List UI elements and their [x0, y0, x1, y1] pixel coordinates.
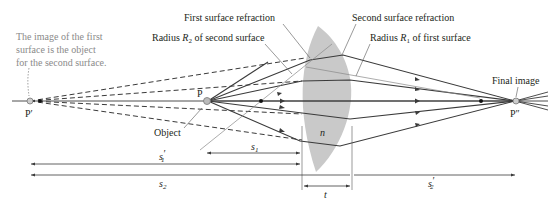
label-s2-prime: s′2	[428, 175, 435, 191]
label-p-double-prime: P″	[510, 108, 520, 119]
label-first-surface-refraction: First surface refraction	[184, 12, 275, 23]
label-radius-r2: Radius R2 of second surface	[152, 32, 265, 45]
center-of-curvature-r1	[259, 99, 263, 103]
leader-final-image	[516, 87, 518, 97]
leader-radius-r2	[265, 44, 292, 74]
label-p-prime: P′	[25, 108, 33, 119]
small-dot-p-prime	[38, 99, 42, 103]
note-line-3: for the second surface.	[16, 57, 107, 68]
dimension-lines	[31, 153, 515, 186]
note-pointer	[28, 68, 29, 96]
label-s1-prime: s′1	[159, 148, 166, 164]
label-s2: s2	[159, 178, 167, 191]
point-p	[204, 98, 211, 105]
label-final-image: Final image	[492, 75, 540, 86]
leader-first-surface	[283, 24, 310, 58]
leader-second-surface	[342, 24, 356, 55]
lens-index-label: n	[320, 127, 325, 138]
point-p-double-prime	[513, 98, 519, 104]
note-line-2: surface is the object	[16, 44, 96, 55]
leader-radius-r1	[356, 44, 370, 76]
label-radius-r1: Radius R1 of first surface	[370, 32, 471, 45]
center-of-curvature-r2	[479, 99, 483, 103]
label-t: t	[324, 189, 327, 200]
thick-lens-diagram: n	[0, 0, 559, 205]
label-second-surface-refraction: Second surface refraction	[352, 12, 454, 23]
label-s1: s1	[251, 141, 258, 154]
label-p: P	[197, 88, 203, 99]
label-object: Object	[154, 127, 181, 138]
point-p-prime	[27, 98, 33, 104]
note-line-1: The image of the first	[16, 31, 103, 42]
real-rays	[208, 55, 515, 146]
